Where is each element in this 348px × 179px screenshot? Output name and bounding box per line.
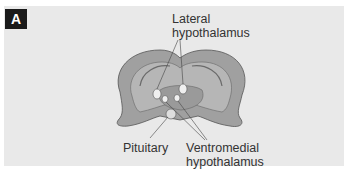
label-ventromedial-hypothalamus: Ventromedial hypothalamus xyxy=(186,141,264,169)
label-lateral-hypothalamus: Lateral hypothalamus xyxy=(172,12,250,40)
ventromedial-left xyxy=(162,96,168,103)
lateral-hypothalamus-right xyxy=(179,84,187,94)
lateral-hypothalamus-left xyxy=(153,89,161,99)
label-pituitary: Pituitary xyxy=(123,141,168,155)
ventromedial-right xyxy=(174,95,180,102)
